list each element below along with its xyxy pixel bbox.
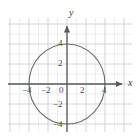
- y-tick-label-4: 4: [58, 39, 63, 48]
- x-tick-label-0: 0: [59, 86, 64, 95]
- x-tick-label-4: 4: [102, 86, 107, 95]
- x-tick-label-2: 2: [80, 86, 85, 95]
- y-axis-label: y: [69, 8, 73, 18]
- ellipse-graph-figure: −4 −2 0 2 4 4 2 −2 −4 y x: [0, 0, 140, 140]
- y-tick-label-2: 2: [58, 59, 63, 68]
- y-tick-label--2: −2: [53, 100, 63, 109]
- coordinate-plane-svg: [0, 0, 140, 140]
- x-tick-label--2: −2: [41, 86, 51, 95]
- x-tick-label--4: −4: [22, 86, 32, 95]
- y-tick-label--4: −4: [53, 120, 63, 129]
- x-axis-label: x: [128, 78, 132, 88]
- plot-panel-background: [8, 18, 132, 132]
